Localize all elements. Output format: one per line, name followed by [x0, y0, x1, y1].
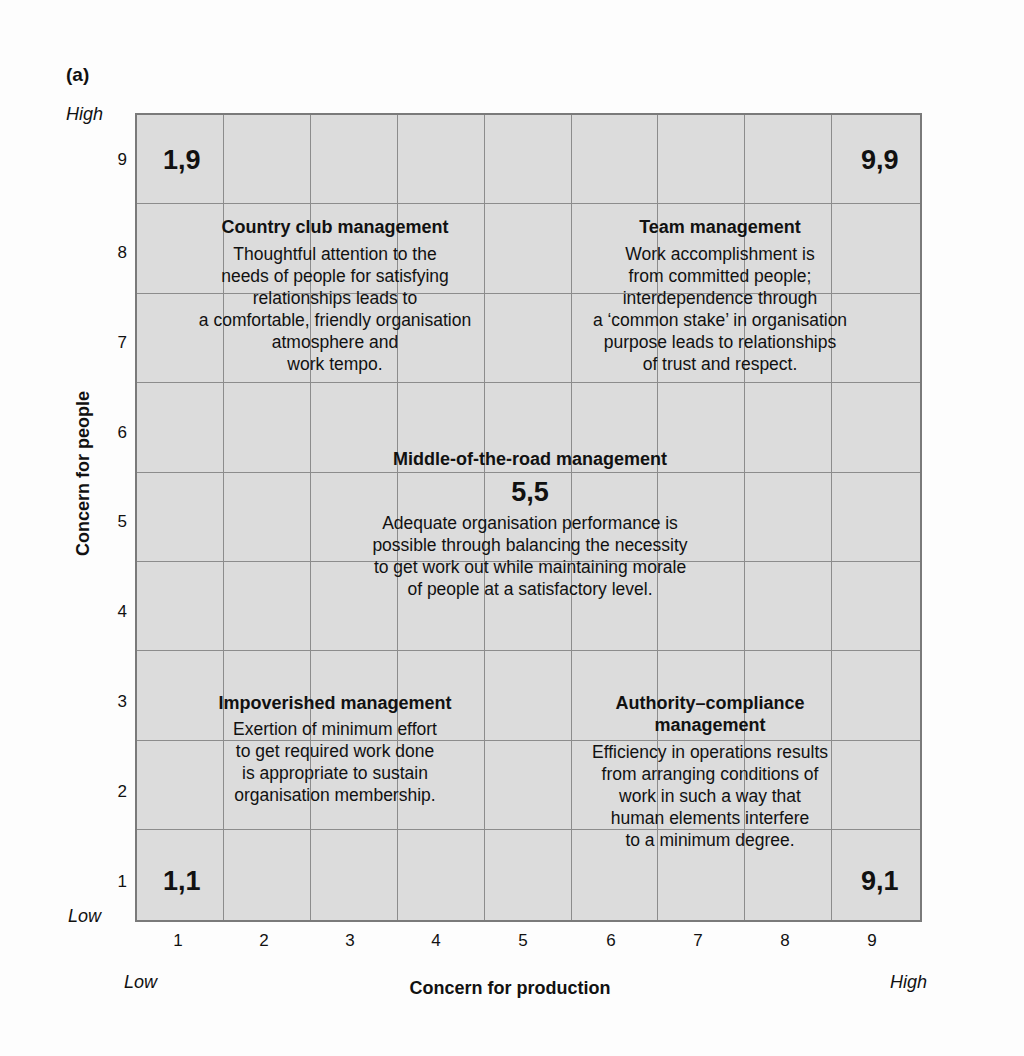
desc-line: to a minimum degree.: [555, 829, 865, 851]
y-high-label: High: [66, 104, 103, 125]
desc-line: possible through balancing the necessity: [310, 534, 750, 556]
y-tick-4: 4: [107, 602, 127, 622]
team-block: Team management Work accomplishment is f…: [535, 216, 905, 375]
coord-1-1: 1,1: [163, 866, 201, 897]
desc-line: a comfortable, friendly organisation: [150, 309, 520, 331]
desc-line: purpose leads to relationships: [535, 331, 905, 353]
desc-line: of people at a satisfactory level.: [310, 578, 750, 600]
desc-line: Thoughtful attention to the: [150, 243, 520, 265]
impoverished-block: Impoverished management Exertion of mini…: [175, 692, 495, 806]
x-tick-5: 5: [513, 931, 533, 951]
grid-hline: [137, 203, 920, 204]
desc-line: from arranging conditions of: [555, 763, 865, 785]
desc-line: human elements interfere: [555, 807, 865, 829]
desc-line: Exertion of minimum effort: [175, 718, 495, 740]
desc-line: of trust and respect.: [535, 353, 905, 375]
y-low-label: Low: [68, 906, 101, 927]
desc-line: relationships leads to: [150, 287, 520, 309]
y-tick-7: 7: [107, 333, 127, 353]
y-axis-title: Concern for people: [73, 379, 94, 569]
desc-line: organisation membership.: [175, 784, 495, 806]
y-tick-6: 6: [107, 423, 127, 443]
x-axis-title: Concern for production: [340, 978, 680, 999]
authority-title-line: management: [555, 714, 865, 736]
desc-line: to get required work done: [175, 740, 495, 762]
desc-line: Efficiency in operations results: [555, 741, 865, 763]
y-tick-9: 9: [107, 150, 127, 170]
country-club-block: Country club management Thoughtful atten…: [150, 216, 520, 375]
y-tick-2: 2: [107, 782, 127, 802]
middle-road-title: Middle-of-the-road management: [310, 448, 750, 470]
desc-line: a ‘common stake’ in organisation: [535, 309, 905, 331]
x-tick-2: 2: [254, 931, 274, 951]
x-tick-3: 3: [340, 931, 360, 951]
coord-9-1: 9,1: [861, 866, 899, 897]
panel-label: (a): [66, 64, 89, 86]
desc-line: Adequate organisation performance is: [310, 512, 750, 534]
x-tick-9: 9: [862, 931, 882, 951]
desc-line: work in such a way that: [555, 785, 865, 807]
desc-line: atmosphere and: [150, 331, 520, 353]
team-title: Team management: [535, 216, 905, 238]
desc-line: Work accomplishment is: [535, 243, 905, 265]
desc-line: work tempo.: [150, 353, 520, 375]
y-tick-8: 8: [107, 243, 127, 263]
y-tick-1: 1: [107, 872, 127, 892]
middle-road-block: Middle-of-the-road management 5,5 Adequa…: [310, 448, 750, 600]
x-tick-1: 1: [168, 931, 188, 951]
desc-line: is appropriate to sustain: [175, 762, 495, 784]
desc-line: from committed people;: [535, 265, 905, 287]
x-low-label: Low: [124, 972, 157, 993]
coord-1-9: 1,9: [163, 145, 201, 176]
y-tick-5: 5: [107, 512, 127, 532]
y-tick-3: 3: [107, 692, 127, 712]
x-tick-7: 7: [688, 931, 708, 951]
x-tick-6: 6: [601, 931, 621, 951]
x-tick-8: 8: [775, 931, 795, 951]
coord-5-5: 5,5: [310, 474, 750, 510]
desc-line: to get work out while maintaining morale: [310, 556, 750, 578]
grid-hline: [137, 382, 920, 383]
authority-compliance-block: Authority–compliance management Efficien…: [555, 692, 865, 851]
impoverished-title: Impoverished management: [175, 692, 495, 714]
country-club-title: Country club management: [150, 216, 520, 238]
coord-9-9: 9,9: [861, 145, 899, 176]
desc-line: interdependence through: [535, 287, 905, 309]
x-tick-4: 4: [426, 931, 446, 951]
desc-line: needs of people for satisfying: [150, 265, 520, 287]
authority-title-line: Authority–compliance: [555, 692, 865, 714]
grid-hline: [137, 650, 920, 651]
x-high-label: High: [890, 972, 927, 993]
